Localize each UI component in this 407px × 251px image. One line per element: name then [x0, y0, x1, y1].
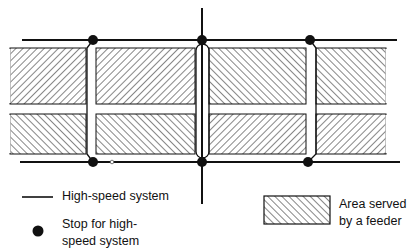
feeder-area-bottom-1: [10, 114, 86, 154]
stop-top-center: [197, 35, 207, 45]
stop-top-left: [88, 35, 98, 45]
high-speed-lines: [20, 8, 400, 204]
stop-bottom-right: [303, 157, 313, 167]
legend-feeder-label-line2: by a feeder: [339, 213, 402, 230]
legend-high-speed-label: High-speed system: [62, 188, 169, 205]
stop-top-right: [305, 35, 315, 45]
feeder-route-left: [87, 40, 93, 162]
feeder-area-bottom-3: [209, 114, 306, 154]
stop-bottom-center: [197, 157, 207, 167]
legend-stop-icon: [33, 226, 44, 237]
feeder-areas: [10, 48, 386, 154]
feeder-area-top-2: [96, 48, 195, 104]
feeder-route-right: [308, 40, 316, 162]
feeder-area-top-1: [10, 48, 86, 104]
minor-point-marker: [110, 160, 114, 164]
feeder-area-bottom-2: [96, 114, 195, 154]
feeder-area-top-4: [316, 48, 386, 104]
feeder-area-bottom-4: [316, 114, 386, 154]
legend-feeder-label-line1: Area served: [339, 196, 406, 213]
legend-stop-label-line2: speed system: [62, 233, 139, 250]
feeder-area-top-3: [209, 48, 306, 104]
stop-bottom-left: [88, 157, 98, 167]
legend-hatch-icon: [264, 196, 330, 224]
legend-stop-label-line1: Stop for high-: [62, 216, 137, 233]
